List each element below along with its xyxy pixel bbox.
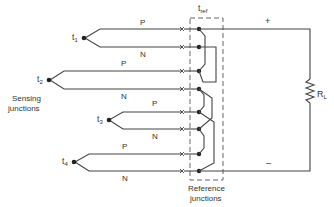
junction-dot bbox=[47, 78, 52, 83]
junction-label-t4: t4 bbox=[62, 156, 68, 167]
sensing-junction-3: t3 P N bbox=[97, 99, 182, 141]
junction-dot bbox=[72, 160, 77, 165]
n-label: N bbox=[152, 132, 158, 141]
minus-label: – bbox=[266, 158, 271, 168]
junction-dot bbox=[107, 118, 112, 123]
reference-junction-dots bbox=[197, 27, 201, 173]
junction-label-t3: t3 bbox=[97, 114, 103, 125]
reference-block-box bbox=[190, 18, 223, 180]
p-label: P bbox=[121, 59, 126, 68]
series-interconnects bbox=[199, 29, 216, 171]
sensing-label-line2: junctions bbox=[7, 104, 40, 113]
junction-label-t2: t2 bbox=[37, 74, 43, 85]
plus-label: + bbox=[265, 16, 270, 26]
sensing-junction-1: t1 P N bbox=[72, 18, 182, 59]
reference-label-line2: junctions bbox=[189, 194, 222, 203]
n-label: N bbox=[140, 50, 146, 59]
sensing-junction-4: t4 P N bbox=[62, 142, 182, 183]
sensing-junction-2: t2 P N bbox=[37, 59, 182, 101]
load-resistor-label: RL bbox=[317, 89, 328, 100]
tref-label: tref bbox=[198, 3, 208, 14]
p-label: P bbox=[152, 99, 157, 108]
reference-label-line1: Reference bbox=[188, 184, 225, 193]
p-label: P bbox=[140, 18, 145, 27]
sensing-label-line1: Sensing bbox=[12, 94, 41, 103]
p-label: P bbox=[122, 142, 127, 151]
junction-dot bbox=[82, 36, 87, 41]
n-label: N bbox=[121, 92, 127, 101]
thermocouple-diagram: t1 P N t2 P N t3 P N t4 P N bbox=[0, 0, 334, 207]
terminal-x-marks bbox=[180, 27, 184, 173]
n-label: N bbox=[122, 174, 128, 183]
reference-leads bbox=[184, 29, 199, 171]
junction-label-t1: t1 bbox=[72, 32, 78, 43]
resistor-symbol bbox=[306, 79, 314, 103]
